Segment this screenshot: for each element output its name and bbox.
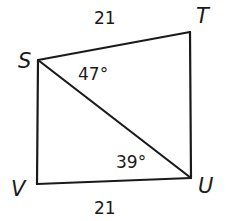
vertex-label-s: S — [18, 49, 31, 73]
side-label-vu: 21 — [94, 198, 116, 218]
segment-st — [38, 32, 190, 60]
angle-label-u: 39° — [116, 152, 146, 172]
segment-tu — [190, 32, 191, 178]
diagonal-su — [38, 60, 191, 178]
segments — [37, 32, 191, 184]
quadrilateral-diagram: S T U V 21 21 47° 39° — [0, 0, 226, 221]
vertex-label-v: V — [11, 177, 27, 201]
segment-uv — [37, 178, 191, 184]
vertex-label-t: T — [196, 4, 211, 28]
vertex-label-u: U — [198, 174, 213, 198]
side-label-st: 21 — [94, 8, 116, 28]
angle-label-s: 47° — [78, 64, 108, 84]
segment-vs — [37, 60, 38, 184]
